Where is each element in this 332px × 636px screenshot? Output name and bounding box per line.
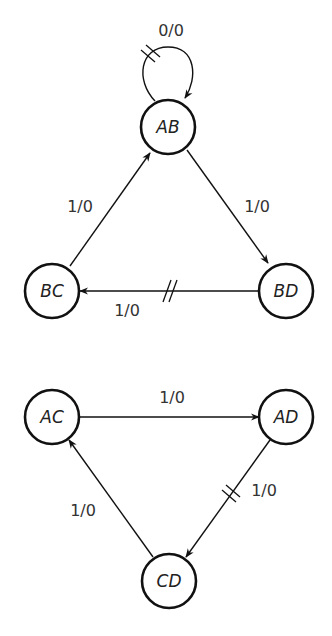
node-label-bd: BD: [274, 281, 299, 301]
edge-label-ad-cd: 1/0: [251, 481, 277, 500]
edge-ab-bd: 1/0: [187, 150, 270, 263]
state-diagram: 0/0 1/0 1/0 1/0 AB BC: [0, 0, 332, 636]
edge-label-ac-ad: 1/0: [159, 388, 185, 407]
edge-ad-cd: 1/0: [186, 440, 277, 557]
node-ad: AD: [259, 390, 313, 444]
node-label-bc: BC: [40, 281, 64, 301]
node-ac: AC: [25, 390, 79, 444]
edge-bc-ab: 1/0: [67, 153, 150, 266]
lower-graph: 1/0 1/0 1/0 AC AD CD: [25, 388, 313, 609]
edge-ac-ad: 1/0: [79, 388, 259, 418]
edge-label-cd-ac: 1/0: [70, 501, 96, 520]
node-label-ad: AD: [273, 407, 299, 427]
edge-cd-ac: 1/0: [69, 440, 153, 557]
edge-label-bc-ab: 1/0: [67, 197, 93, 216]
node-bc: BC: [25, 264, 79, 318]
node-bd: BD: [259, 264, 313, 318]
edge-label-ab-ab: 0/0: [158, 21, 184, 40]
node-label-ab: AB: [155, 117, 179, 137]
node-ab: AB: [141, 100, 195, 154]
upper-graph: 0/0 1/0 1/0 1/0 AB BC: [25, 21, 313, 320]
edge-bd-bc: 1/0: [80, 280, 259, 320]
edge-label-ab-bd: 1/0: [244, 197, 270, 216]
edge-label-bd-bc: 1/0: [114, 301, 140, 320]
edge-ab-ab: 0/0: [141, 21, 193, 102]
node-cd: CD: [142, 554, 196, 608]
node-label-ac: AC: [39, 407, 64, 427]
node-label-cd: CD: [157, 571, 182, 591]
